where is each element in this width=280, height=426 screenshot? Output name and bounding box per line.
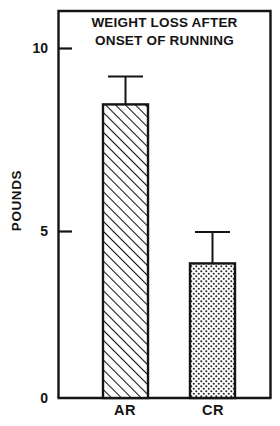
plot-area [0, 0, 280, 426]
x-tick-label-ar: AR [95, 403, 155, 418]
bar-ar [103, 104, 148, 398]
plot-frame [59, 11, 271, 398]
chart-title-line-1: WEIGHT LOSS AFTER [91, 15, 237, 30]
y-tick-label-5: 5 [10, 224, 48, 238]
x-tick-label-cr: CR [183, 403, 243, 418]
y-tick-label-0: 0 [10, 391, 48, 405]
y-tick-label-10: 10 [10, 41, 48, 55]
bar-group-cr [190, 232, 235, 398]
chart-title-line-2: ONSET OF RUNNING [62, 32, 267, 50]
chart-title: WEIGHT LOSS AFTER ONSET OF RUNNING [62, 14, 267, 49]
bar-cr [190, 263, 235, 398]
chart-figure: POUNDS 10 5 0 AR CR WEIGHT LOSS AFTER ON… [0, 0, 280, 426]
bar-group-ar [103, 77, 148, 399]
